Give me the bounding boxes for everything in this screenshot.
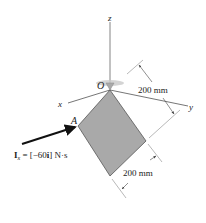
impulse-expression: = [−60 — [20, 150, 47, 160]
origin-label: O — [97, 80, 104, 91]
impulse-label: Ix = [−60i] N·s — [14, 150, 68, 161]
impulse-unit: ] N·s — [49, 150, 68, 160]
support-bracket — [106, 83, 114, 90]
dimension-1-label: 200 mm — [138, 85, 168, 95]
plate — [78, 90, 146, 176]
dimension-1-line-a — [139, 65, 152, 82]
y-axis-label: y — [188, 102, 193, 112]
z-axis-label: z — [107, 13, 112, 23]
x-axis-label: x — [57, 99, 62, 109]
dimension-2-ext-bottom — [112, 179, 126, 198]
dimension-2-ext-right — [148, 144, 162, 162]
dimension-2-label: 200 mm — [123, 168, 153, 178]
dimension-2-line-a — [150, 156, 156, 160]
point-a-label: A — [70, 115, 78, 126]
impulse-arrow — [22, 127, 75, 144]
dimension-1-ext-bottom — [149, 110, 180, 138]
dimension-1-line-b — [163, 98, 174, 114]
dimension-2-line-b — [122, 183, 128, 189]
diagram-canvas: z x y O A Ix = [−60i] N·s 200 mm 200 mm — [0, 0, 206, 223]
